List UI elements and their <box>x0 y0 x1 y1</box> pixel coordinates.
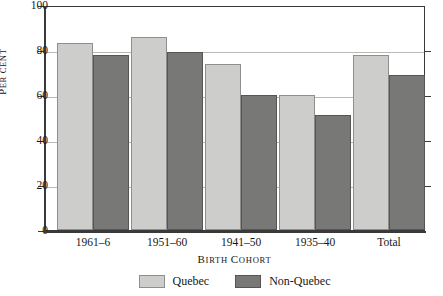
legend-item-non-quebec: Non-Quebec <box>235 274 330 289</box>
y-axis-line <box>44 6 46 232</box>
x-axis-title: BIRTH COHORT <box>44 253 425 265</box>
y-tick-label-100: 100 <box>31 0 48 11</box>
bar-quebec-1941-50 <box>205 64 241 231</box>
bar-quebec-total <box>353 55 389 231</box>
legend: Quebec Non-Quebec <box>44 270 425 292</box>
y-tick-label-0: 0 <box>42 224 48 236</box>
x-axis-title-mid: IRTH <box>206 255 231 265</box>
y-axis-title-rest: ER CENT <box>0 49 8 89</box>
bar-non-quebec-1951-60 <box>167 52 203 230</box>
x-tick-label-1961-6: 1961–6 <box>56 236 130 248</box>
bar-chart: 100 80 60 40 20 0 PER CENT 1961–6 1951–6… <box>0 0 443 296</box>
y-tick-right-40 <box>425 141 431 142</box>
bar-non-quebec-total <box>389 75 425 230</box>
x-tick-label-total: Total <box>352 236 426 248</box>
y-tick-right-20 <box>425 186 431 187</box>
legend-item-quebec: Quebec <box>139 274 210 289</box>
x-axis-title-initial-b: B <box>198 253 206 265</box>
bar-non-quebec-1935-40 <box>315 115 351 230</box>
x-axis-title-initial-c: C <box>231 253 239 265</box>
y-axis-title-initial: P <box>0 88 8 95</box>
bar-non-quebec-1961-6 <box>93 55 129 231</box>
bar-quebec-1951-60 <box>131 37 167 231</box>
y-tick-right-80 <box>425 51 431 52</box>
plot-area <box>44 6 425 231</box>
gridline-80 <box>45 52 424 53</box>
bar-non-quebec-1941-50 <box>241 95 277 230</box>
x-tick-label-1941-50: 1941–50 <box>204 236 278 248</box>
x-axis-line <box>44 231 426 233</box>
x-tick-label-1935-40: 1935–40 <box>278 236 352 248</box>
y-tick-label-20: 20 <box>37 179 49 191</box>
legend-label-quebec: Quebec <box>173 274 210 289</box>
bar-quebec-1961-6 <box>57 43 93 230</box>
y-axis-title: PER CENT <box>0 0 8 95</box>
y-tick-right-60 <box>425 96 431 97</box>
y-tick-label-60: 60 <box>37 89 49 101</box>
y-tick-label-40: 40 <box>37 134 49 146</box>
x-axis-title-rest: OHORT <box>239 255 272 265</box>
x-tick-label-1951-60: 1951–60 <box>130 236 204 248</box>
bar-quebec-1935-40 <box>279 95 315 230</box>
legend-swatch-quebec <box>139 275 165 288</box>
legend-label-non-quebec: Non-Quebec <box>269 274 330 289</box>
y-tick-label-80: 80 <box>37 44 49 56</box>
legend-swatch-non-quebec <box>235 275 261 288</box>
